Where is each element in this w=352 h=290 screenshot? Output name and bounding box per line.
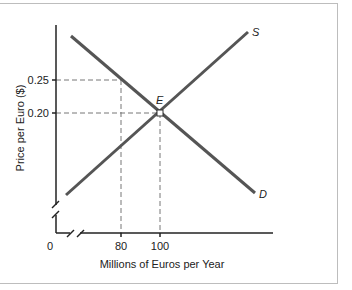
demand-label: D (259, 188, 267, 200)
y-tick-label-025: 0.25 (28, 74, 49, 86)
supply-demand-chart: 0.25 0.20 0 80 100 Millions of Euros per… (0, 0, 352, 290)
equilibrium-marker (157, 110, 163, 116)
x-tick-label-0: 0 (47, 240, 53, 252)
supply-label: S (252, 26, 260, 38)
equilibrium-label: E (156, 94, 164, 106)
y-axis-title: Price per Euro ($) (14, 85, 26, 172)
axes (52, 25, 273, 237)
x-tick-label-80: 80 (115, 240, 127, 252)
x-axis-title: Millions of Euros per Year (100, 258, 225, 270)
y-tick-label-020: 0.20 (28, 107, 49, 119)
x-tick-label-100: 100 (151, 240, 169, 252)
